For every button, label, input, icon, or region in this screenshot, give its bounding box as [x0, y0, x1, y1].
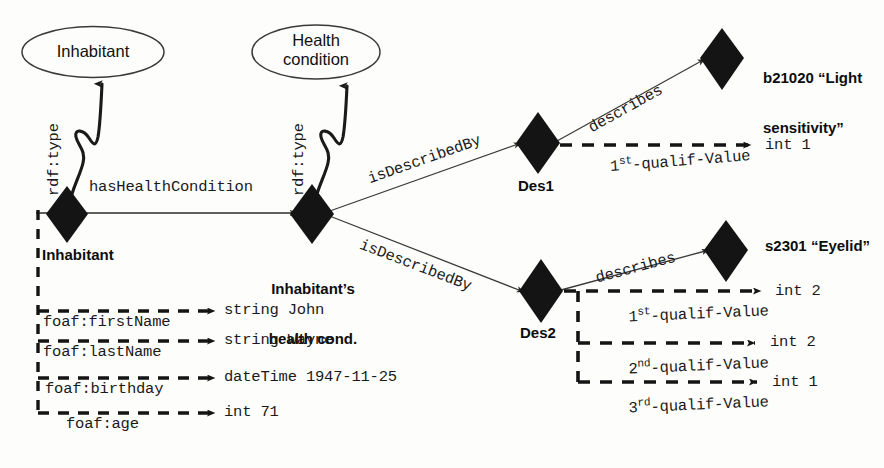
qualif-ordinal-suffix: rd [637, 397, 651, 410]
literal-des2-qualif2: int 2 [770, 334, 816, 351]
literal-age: int 71 [224, 404, 279, 421]
qualif-ordinal-rest: -qualif-Value [650, 355, 769, 378]
qualif-ordinal-suffix: st [618, 155, 632, 168]
literal-last-name: string Wayne [224, 332, 333, 349]
edge-label-foaf-birthday: foaf:birthday [45, 381, 163, 398]
literal-des2-qualif3: int 1 [772, 374, 818, 391]
qualif-ordinal-rest: -qualif-Value [650, 394, 769, 417]
qualif-ordinal-rest: -qualif-Value [650, 303, 769, 326]
literal-des2-qualif1: int 2 [775, 283, 821, 300]
node-label-b21020-line2: sensitivity” [763, 120, 862, 137]
qualif-ordinal-suffix: st [637, 306, 651, 319]
edge-label-des2-qualif1: 1st-qualif-Value [591, 286, 770, 346]
node-label-inhabitant: Inhabitant [42, 247, 114, 264]
class-label-health-condition-line2: condition [256, 50, 376, 69]
edge-label-foaf-last-name: foaf:lastName [43, 344, 161, 361]
class-label-health-condition-line1: Health [256, 31, 376, 50]
edge-label-foaf-age: foaf:age [66, 416, 139, 433]
edge-label-has-health-condition: hasHealthCondition [89, 179, 253, 196]
literal-des1-qualif1: int 1 [765, 137, 811, 154]
qualif-ordinal-rest: -qualif-Value [632, 147, 751, 174]
node-diamond-s2301 [704, 220, 748, 282]
node-label-health-cond-line1: Inhabitant’s [257, 281, 369, 298]
edge-label-rdf-type-inhabitant: rdf:type [46, 123, 63, 196]
node-diamond-b21020 [700, 28, 744, 90]
node-label-s2301: s2301 “Eyelid” [765, 238, 870, 255]
node-label-b21020-line1: b21020 “Light [763, 70, 862, 87]
node-diamond-des1 [516, 112, 560, 174]
edge-label-rdf-type-health-cond: rdf:type [291, 123, 308, 196]
qualif-ordinal-suffix: nd [637, 358, 651, 371]
class-label-inhabitant: Inhabitant [33, 42, 153, 61]
node-diamond-des2 [519, 259, 563, 323]
node-label-des2: Des2 [520, 325, 556, 342]
rdf-graph-diagram: Inhabitant Health condition rdf:type rdf… [0, 0, 884, 468]
edge-rdf-type-health-cond [314, 86, 347, 206]
node-label-des1: Des1 [518, 178, 554, 195]
literal-birthday: dateTime 1947-11-25 [224, 369, 397, 386]
class-label-health-condition: Health condition [256, 31, 376, 69]
edge-label-foaf-first-name: foaf:firstName [43, 314, 170, 331]
edge-label-des2-qualif3: 3rd-qualif-Value [591, 377, 770, 437]
literal-first-name: string John [224, 302, 324, 319]
